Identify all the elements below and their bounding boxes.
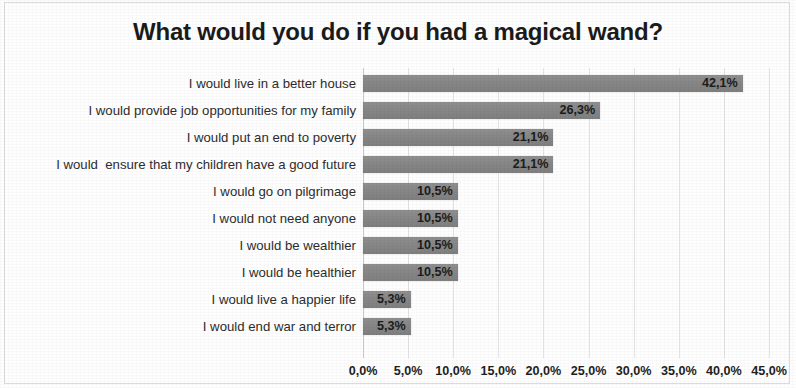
plot-area: 42,1%26,3%21,1%21,1%10,5%10,5%10,5%10,5%…: [363, 68, 769, 358]
chart-container: What would you do if you had a magical w…: [0, 0, 796, 388]
x-tick-label: 45,0%: [751, 364, 787, 378]
gridline: [769, 68, 770, 358]
category-label: I would go on pilgrimage: [213, 178, 356, 205]
x-tick-label: 10,0%: [435, 364, 471, 378]
bar-value-label: 10,5%: [363, 183, 458, 200]
bar-series: 42,1%26,3%21,1%21,1%10,5%10,5%10,5%10,5%…: [363, 68, 769, 358]
category-label: I would put an end to poverty: [187, 124, 356, 151]
category-label: I would ensure that my children have a g…: [56, 151, 356, 178]
x-tick-label: 40,0%: [706, 364, 742, 378]
x-tick-label: 25,0%: [571, 364, 607, 378]
bar-row: 10,5%: [363, 178, 769, 205]
bar-row: 42,1%: [363, 70, 769, 97]
bar-row: 10,5%: [363, 259, 769, 286]
chart-title: What would you do if you had a magical w…: [0, 18, 796, 46]
category-label: I would live a happier life: [212, 286, 356, 313]
x-axis-tick-labels: 0,0%5,0%10,0%15,0%20,0%25,0%30,0%35,0%40…: [363, 364, 769, 384]
category-axis-labels: I would live in a better houseI would pr…: [8, 68, 356, 358]
bar-row: 10,5%: [363, 232, 769, 259]
category-label: I would not need anyone: [212, 205, 356, 232]
bar-value-label: 5,3%: [363, 291, 411, 308]
bar-row: 21,1%: [363, 151, 769, 178]
category-label: I would provide job opportunities for my…: [88, 97, 356, 124]
bar-value-label: 26,3%: [363, 102, 600, 119]
bar-value-label: 42,1%: [363, 75, 743, 92]
x-tick-label: 15,0%: [480, 364, 516, 378]
bar-value-label: 10,5%: [363, 237, 458, 254]
category-label: I would be healthier: [242, 259, 356, 286]
x-tick-label: 20,0%: [526, 364, 562, 378]
x-tick-label: 5,0%: [394, 364, 423, 378]
x-tick-label: 0,0%: [349, 364, 378, 378]
bar-row: 5,3%: [363, 313, 769, 340]
category-label: I would end war and terror: [203, 313, 356, 340]
bar-value-label: 21,1%: [363, 156, 553, 173]
bar-row: 10,5%: [363, 205, 769, 232]
x-tick-label: 30,0%: [616, 364, 652, 378]
bar-row: 26,3%: [363, 97, 769, 124]
x-tick-label: 35,0%: [661, 364, 697, 378]
bar-row: 21,1%: [363, 124, 769, 151]
bar-value-label: 21,1%: [363, 129, 553, 146]
bar-value-label: 5,3%: [363, 318, 411, 335]
bar-value-label: 10,5%: [363, 210, 458, 227]
category-label: I would be wealthier: [239, 232, 356, 259]
bar-row: 5,3%: [363, 286, 769, 313]
category-label: I would live in a better house: [189, 70, 356, 97]
bar-value-label: 10,5%: [363, 264, 458, 281]
